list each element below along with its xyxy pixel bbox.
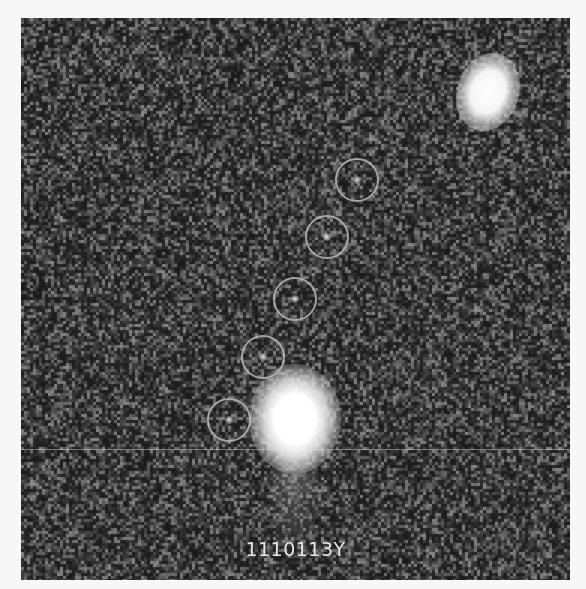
detection-circle — [335, 158, 379, 202]
moving-object-detection — [323, 233, 331, 241]
astronomy-image: 1110113Y — [21, 18, 570, 580]
detection-circle — [241, 335, 285, 379]
object-designation-label: 1110113Y — [21, 538, 570, 560]
moving-object-detection — [225, 416, 233, 424]
detection-circle — [305, 215, 349, 259]
moving-object-detection — [291, 295, 299, 303]
moving-object-detection — [353, 176, 361, 184]
bright-star — [249, 364, 341, 474]
detection-circle — [273, 277, 317, 321]
detection-circle — [207, 398, 251, 442]
moving-object-detection — [259, 353, 267, 361]
